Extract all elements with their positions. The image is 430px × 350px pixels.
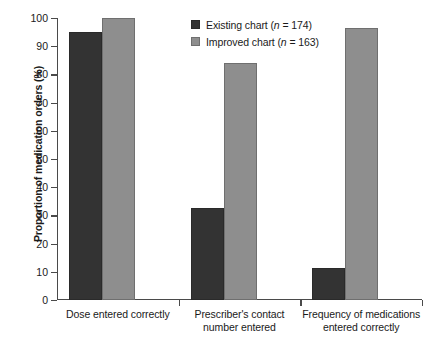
legend-swatch-improved-chart-icon: [191, 37, 200, 46]
bar-improved-chart-group-1: [102, 18, 135, 300]
y-axis-tick-label: 100: [0, 12, 48, 24]
category-label-group-2: Prescriber's contactnumber entered: [179, 308, 301, 334]
y-axis-tick-label: 0: [0, 294, 48, 306]
category-label-line: number entered: [179, 321, 301, 334]
bar-existing-chart-group-1: [69, 32, 102, 300]
legend-swatch-existing-chart-icon: [191, 20, 200, 29]
y-axis-tick-label: 90: [0, 40, 48, 52]
legend-item-improved-chart: Improved chart (n = 163): [191, 34, 319, 49]
y-axis-tick-label: 40: [0, 181, 48, 193]
x-axis-tick: [422, 300, 423, 306]
plot-area: [57, 18, 422, 300]
y-axis-tick: [51, 300, 57, 301]
x-axis-tick: [179, 300, 180, 306]
y-axis-tick-label: 80: [0, 68, 48, 80]
bar-improved-chart-group-2: [224, 63, 257, 300]
y-axis-tick-label: 20: [0, 238, 48, 250]
x-axis-tick: [300, 300, 301, 306]
legend-item-existing-chart: Existing chart (n = 174): [191, 17, 319, 32]
bar-existing-chart-group-2: [191, 208, 224, 300]
category-label-group-1: Dose entered correctly: [57, 308, 179, 321]
category-label-line: entered correctly: [300, 321, 422, 334]
bar-improved-chart-group-3: [345, 28, 378, 300]
category-label-line: Frequency of medications: [300, 308, 422, 321]
y-axis-tick-label: 10: [0, 266, 48, 278]
category-label-group-3: Frequency of medicationsentered correctl…: [300, 308, 422, 334]
y-axis-tick-label: 70: [0, 97, 48, 109]
legend-label-improved-chart: Improved chart (n = 163): [206, 36, 319, 48]
chart-legend: Existing chart (n = 174) Improved chart …: [191, 17, 319, 51]
y-axis-tick-label: 60: [0, 125, 48, 137]
legend-label-existing-chart: Existing chart (n = 174): [206, 19, 312, 31]
bar-chart-figure: Proportion of medication orders (%) 0102…: [0, 0, 430, 350]
bar-existing-chart-group-3: [312, 268, 345, 300]
category-label-line: Dose entered correctly: [57, 308, 179, 321]
y-axis-tick-label: 50: [0, 153, 48, 165]
y-axis-tick-label: 30: [0, 209, 48, 221]
category-label-line: Prescriber's contact: [179, 308, 301, 321]
